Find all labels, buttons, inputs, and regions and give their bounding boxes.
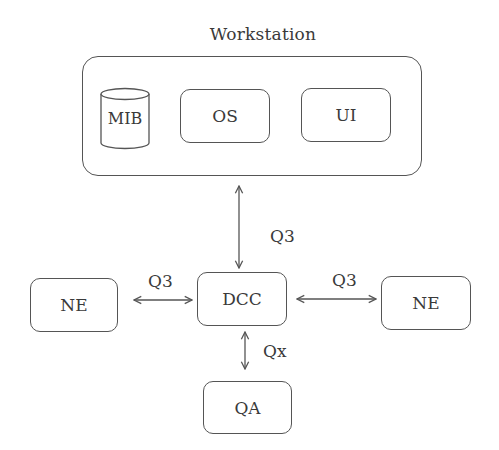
ui-label: UI xyxy=(335,105,356,125)
edge-label-workstation-dcc: Q3 xyxy=(270,226,295,246)
network-management-diagram: Workstation MIB OS UI DCC NE xyxy=(0,0,499,450)
qa-label: QA xyxy=(234,398,260,418)
ne-right-label: NE xyxy=(412,293,439,313)
edge-label-ne-left-dcc: Q3 xyxy=(148,271,173,291)
edge-label-dcc-ne-right: Q3 xyxy=(332,270,357,290)
os-box: OS xyxy=(180,89,270,143)
ne-left-box: NE xyxy=(30,278,118,332)
os-label: OS xyxy=(212,106,238,126)
ui-box: UI xyxy=(301,88,391,142)
dcc-label: DCC xyxy=(222,289,262,309)
qa-box: QA xyxy=(203,381,292,434)
ne-left-label: NE xyxy=(60,295,87,315)
ne-right-box: NE xyxy=(381,276,471,330)
edge-label-dcc-qa: Qx xyxy=(263,341,287,361)
mib-label: MIB xyxy=(101,109,149,128)
dcc-box: DCC xyxy=(197,272,287,326)
